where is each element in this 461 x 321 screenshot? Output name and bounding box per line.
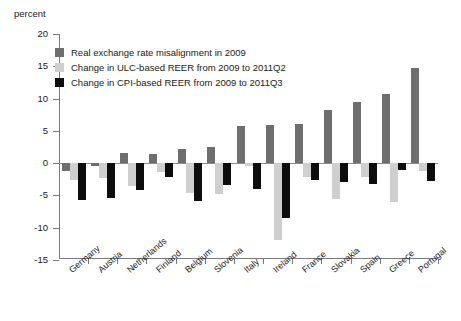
bar (353, 102, 361, 163)
legend-item: Real exchange rate misalignment in 2009 (55, 45, 286, 60)
bar (295, 124, 303, 163)
bar (311, 163, 319, 180)
y-axis-title: percent (14, 8, 46, 19)
bar (194, 163, 202, 201)
y-axis-tick (53, 195, 59, 196)
bar (207, 147, 215, 163)
y-axis-tick-label: -10 (4, 222, 48, 233)
bar (120, 153, 128, 163)
bar (178, 149, 186, 163)
y-axis-tick (53, 131, 59, 132)
y-axis-tick-label: 10 (4, 93, 48, 104)
bar (340, 163, 348, 182)
bar (398, 163, 406, 170)
legend-item: Change in ULC-based REER from 2009 to 20… (55, 60, 286, 75)
bar (128, 163, 136, 186)
bar (332, 163, 340, 199)
y-axis-tick (53, 163, 59, 164)
bar (324, 110, 332, 163)
legend-item-label: Change in ULC-based REER from 2009 to 20… (71, 62, 286, 73)
y-axis-tick (53, 260, 59, 261)
bar (369, 163, 377, 184)
bar (282, 163, 290, 218)
legend-item-label: Real exchange rate misalignment in 2009 (71, 47, 246, 58)
bar (136, 163, 144, 190)
legend-item-label: Change in CPI-based REER from 2009 to 20… (71, 77, 283, 88)
bar (382, 94, 390, 163)
bar (253, 163, 261, 189)
bar (223, 163, 231, 185)
bar (390, 163, 398, 202)
bar (186, 163, 194, 193)
bar (361, 163, 369, 177)
bar (62, 163, 70, 171)
bar-chart: percent 20151050-5-10-15 GermanyAustriaN… (0, 0, 461, 321)
y-axis-tick-label: -15 (4, 254, 48, 265)
legend: Real exchange rate misalignment in 2009 … (55, 45, 286, 90)
legend-swatch-icon (55, 48, 64, 57)
bar (157, 163, 165, 172)
bar (149, 154, 157, 163)
y-axis-tick (53, 34, 59, 35)
y-axis-tick (53, 228, 59, 229)
bar (215, 163, 223, 194)
bar (107, 163, 115, 198)
bar (99, 163, 107, 178)
x-axis-tick (263, 259, 264, 264)
y-axis-tick-label: 5 (4, 125, 48, 136)
bar (70, 163, 78, 180)
bar (91, 163, 99, 166)
y-axis-tick-label: 0 (4, 157, 48, 168)
y-axis-tick-label: 20 (4, 28, 48, 39)
bar (427, 163, 435, 181)
bar (303, 163, 311, 177)
bar (165, 163, 173, 177)
y-axis-tick-label: -5 (4, 189, 48, 200)
y-axis-tick (53, 99, 59, 100)
bar (419, 163, 427, 171)
bar (78, 163, 86, 200)
bar (411, 68, 419, 163)
bar (245, 163, 253, 166)
x-axis-category-label: Italy (242, 256, 261, 274)
bar (274, 163, 282, 240)
bar (266, 125, 274, 163)
legend-item: Change in CPI-based REER from 2009 to 20… (55, 75, 286, 90)
legend-swatch-icon (55, 78, 64, 87)
legend-swatch-icon (55, 63, 64, 72)
bar (237, 126, 245, 163)
y-axis-tick-label: 15 (4, 60, 48, 71)
